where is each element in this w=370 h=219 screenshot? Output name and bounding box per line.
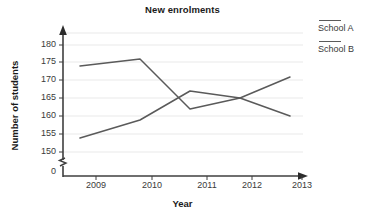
y-tick-label-160: 160	[26, 110, 56, 120]
legend-swatch-school-b	[319, 41, 341, 42]
x-tick-label-2011: 2011	[187, 180, 227, 190]
y-tick-label-165: 165	[26, 92, 56, 102]
gridlines	[63, 33, 303, 152]
series-line-school-a	[80, 59, 290, 116]
legend-swatch-school-a	[319, 20, 341, 21]
series-line-school-b	[80, 77, 290, 138]
y-axis-line	[59, 25, 67, 177]
y-tick-label-0: 0	[26, 166, 56, 176]
chart-legend: School A School B	[318, 20, 370, 62]
x-tick-label-2013: 2013	[282, 180, 322, 190]
legend-entry-school-a: School A	[318, 20, 370, 33]
x-axis-label: Year	[55, 198, 310, 209]
y-tick-label-180: 180	[26, 39, 56, 49]
y-tick-label-155: 155	[26, 128, 56, 138]
chart-figure: New enrolments Number of students	[0, 0, 370, 219]
x-tick-label-2010: 2010	[132, 180, 172, 190]
y-tick-label-150: 150	[26, 146, 56, 156]
legend-label-school-b: School B	[318, 44, 370, 54]
axis-break-icon	[60, 158, 67, 166]
x-axis-line	[63, 172, 308, 180]
x-tick-label-2009: 2009	[76, 180, 116, 190]
y-tick-label-175: 175	[26, 56, 56, 66]
legend-entry-school-b: School B	[318, 41, 370, 54]
legend-label-school-a: School A	[318, 23, 370, 33]
x-tick-label-2012: 2012	[232, 180, 272, 190]
y-tick-label-170: 170	[26, 74, 56, 84]
